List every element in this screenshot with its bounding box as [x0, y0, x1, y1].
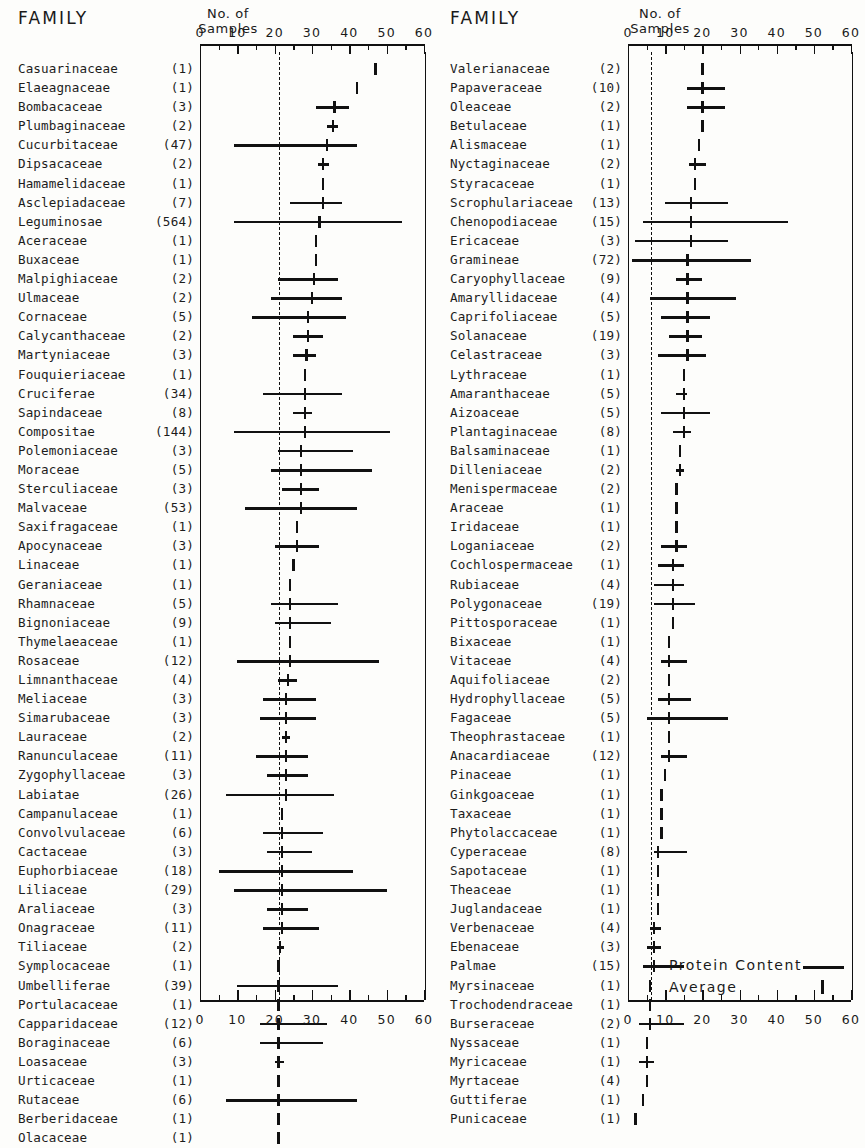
- family-name: Amaranthaceae: [450, 386, 550, 401]
- average-marker: [296, 540, 298, 552]
- axis-tick-label: 20: [693, 25, 711, 40]
- family-name: Pittosporaceae: [450, 615, 558, 630]
- family-name: Nyssaceae: [450, 1035, 519, 1050]
- sample-count: (19): [548, 596, 622, 611]
- sample-count: (2): [548, 156, 622, 171]
- family-name: Apocynaceae: [18, 538, 103, 553]
- average-marker: [287, 674, 289, 686]
- protein-range-bar: [237, 985, 338, 988]
- family-name: Convolvulaceae: [18, 825, 126, 840]
- axis-tick-minor: [331, 995, 332, 1001]
- sample-count: (1): [120, 997, 194, 1012]
- family-name: Casuarinaceae: [18, 61, 118, 76]
- family-name: Malpighiaceae: [18, 271, 118, 286]
- family-row: Ulmaceae(2): [0, 289, 432, 308]
- average-marker: [289, 636, 291, 648]
- average-marker: [660, 789, 662, 801]
- family-row: Ranunculaceae(11): [0, 747, 432, 766]
- sample-count: (15): [548, 214, 622, 229]
- sample-count: (1): [548, 176, 622, 191]
- family-row: Loasaceae(3): [0, 1053, 432, 1072]
- sample-count: (1): [120, 519, 194, 534]
- family-name: Simarubaceae: [18, 710, 110, 725]
- average-marker: [315, 254, 317, 266]
- family-row: Myrtaceae(4): [432, 1072, 865, 1091]
- protein-range-bar: [658, 354, 706, 357]
- protein-range-bar: [271, 603, 338, 606]
- axis-tick-major: [628, 990, 629, 1000]
- family-name: Sapindaceae: [18, 405, 103, 420]
- family-row: Malvaceae(53): [0, 499, 432, 518]
- family-row: Dipsacaceae(2): [0, 155, 432, 174]
- sample-count: (1): [548, 729, 622, 744]
- average-marker: [285, 789, 287, 801]
- average-marker: [277, 960, 279, 972]
- family-row: Myricaceae(1): [432, 1053, 865, 1072]
- average-marker: [657, 884, 659, 896]
- legend-protein-content-swatch: [803, 966, 844, 969]
- sample-count: (2): [120, 939, 194, 954]
- family-row: Hamamelidaceae(1): [0, 175, 432, 194]
- protein-range-bar: [263, 927, 319, 930]
- sample-count: (47): [120, 137, 194, 152]
- family-name: Meliaceae: [18, 691, 87, 706]
- family-name: Dilleniaceae: [450, 462, 542, 477]
- axis-tick-major: [237, 990, 238, 1000]
- family-row: Elaeagnaceae(1): [0, 79, 432, 98]
- family-name: Limnanthaceae: [18, 672, 118, 687]
- average-marker: [322, 158, 324, 170]
- protein-range-bar: [635, 240, 728, 243]
- average-marker: [698, 139, 700, 151]
- axis-tick-major: [424, 990, 425, 1000]
- sample-count: (1): [548, 806, 622, 821]
- family-row: Cochlospermaceae(1): [432, 556, 865, 575]
- family-row: Hydrophyllaceae(5): [432, 690, 865, 709]
- sample-count: (1): [548, 519, 622, 534]
- sample-count: (6): [120, 1092, 194, 1107]
- average-marker: [668, 636, 670, 648]
- protein-range-bar: [267, 774, 308, 777]
- family-row: Linaceae(1): [0, 556, 432, 575]
- family-name: Oleaceae: [450, 99, 511, 114]
- average-marker: [683, 369, 685, 381]
- family-name: Martyniaceae: [18, 347, 110, 362]
- axis-tick-minor: [721, 995, 722, 1001]
- axis-tick-label: 20: [693, 1012, 711, 1027]
- protein-range-bar: [676, 278, 702, 281]
- sample-count: (3): [120, 443, 194, 458]
- sample-count: (1): [548, 825, 622, 840]
- protein-range-bar: [661, 660, 687, 663]
- family-row: Guttiferae(1): [432, 1091, 865, 1110]
- family-row: Plantaginaceae(8): [432, 423, 865, 442]
- family-name: Menispermaceae: [450, 481, 558, 496]
- family-name: Zygophyllaceae: [18, 767, 126, 782]
- family-row: Bignoniaceae(9): [0, 614, 432, 633]
- sample-count: (144): [120, 424, 194, 439]
- family-row: Menispermaceae(2): [432, 480, 865, 499]
- sample-count: (8): [120, 405, 194, 420]
- average-marker: [664, 769, 666, 781]
- family-row: Compositae(144): [0, 423, 432, 442]
- family-row: Lauraceae(2): [0, 728, 432, 747]
- average-marker: [311, 292, 313, 304]
- family-name: Lythraceae: [450, 367, 527, 382]
- family-name: Loganiaceae: [450, 538, 535, 553]
- sample-count: (53): [120, 500, 194, 515]
- average-marker: [690, 216, 692, 228]
- average-marker: [668, 750, 670, 762]
- sample-count: (19): [548, 328, 622, 343]
- family-name: Cornaceae: [18, 309, 87, 324]
- average-marker: [281, 903, 283, 915]
- average-marker: [668, 693, 670, 705]
- sample-count: (9): [548, 271, 622, 286]
- family-name: Bignoniaceae: [18, 615, 110, 630]
- family-name: Cruciferae: [18, 386, 95, 401]
- family-row: Amaranthaceae(5): [432, 385, 865, 404]
- family-row: Scrophulariaceae(13): [432, 194, 865, 213]
- axis-tick-major: [814, 990, 815, 1000]
- average-marker: [285, 731, 287, 743]
- family-row: Balsaminaceae(1): [432, 442, 865, 461]
- family-row: Umbelliferae(39): [0, 977, 432, 996]
- legend-average-swatch: [821, 980, 823, 994]
